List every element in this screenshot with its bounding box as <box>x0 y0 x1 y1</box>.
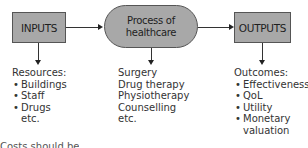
list-continuation: valuation <box>234 125 308 137</box>
process-detail: Surgery Drug therapy Physiotherapy Couns… <box>118 67 189 125</box>
footer-note: Costs should be <box>0 141 79 148</box>
list-item: Physiotherapy <box>118 90 189 102</box>
arrowhead-down-icon <box>35 60 41 65</box>
arrowhead-right-icon <box>98 24 103 30</box>
list-item: Utility <box>234 102 308 114</box>
list-item: Monetary <box>234 113 308 125</box>
inputs-box: INPUTS <box>12 12 66 43</box>
resources-list: Buildings Staff Drugs etc. <box>12 79 67 125</box>
list-trailing: etc. <box>12 113 67 125</box>
list-item: Drugs <box>12 102 67 114</box>
outputs-box: OUTPUTS <box>234 12 291 43</box>
process-of-healthcare-node: Process of healthcare <box>104 5 198 48</box>
connector-inputs-to-process <box>66 27 99 28</box>
outcomes-list: Effectiveness QoL Utility Monetary valua… <box>234 79 308 137</box>
outputs-label: OUTPUTS <box>239 22 286 34</box>
inputs-detail: Resources: Buildings Staff Drugs etc. <box>12 67 67 125</box>
process-label-line1: Process of <box>127 15 175 27</box>
list-item: Counselling <box>118 102 189 114</box>
list-item: Drug therapy <box>118 79 189 91</box>
list-item: etc. <box>118 113 189 125</box>
list-item: Buildings <box>12 79 67 91</box>
list-item: QoL <box>234 90 308 102</box>
connector-inputs-down <box>38 43 39 60</box>
process-list: Surgery Drug therapy Physiotherapy Couns… <box>118 67 189 125</box>
list-item: Surgery <box>118 67 189 79</box>
inputs-label: INPUTS <box>21 22 57 34</box>
arrowhead-right-icon <box>229 24 234 30</box>
connector-outputs-down <box>262 43 263 60</box>
arrowhead-down-icon <box>148 60 154 65</box>
connector-process-down <box>151 48 152 60</box>
outcomes-heading: Outcomes: <box>234 67 308 79</box>
process-label-line2: healthcare <box>126 27 176 39</box>
connector-process-to-outputs <box>198 27 229 28</box>
list-item: Staff <box>12 90 67 102</box>
resources-heading: Resources: <box>12 67 67 79</box>
outputs-detail: Outcomes: Effectiveness QoL Utility Mone… <box>234 67 308 136</box>
list-item: Effectiveness <box>234 79 308 91</box>
arrowhead-down-icon <box>259 60 265 65</box>
